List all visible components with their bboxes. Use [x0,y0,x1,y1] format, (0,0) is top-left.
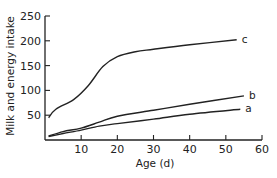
series-label-a: a [245,102,251,114]
x-tick-label: 30 [147,143,161,156]
x-axis-title: Age (d) [136,157,175,169]
y-tick-label: 200 [20,35,41,48]
y-tick-label: 150 [20,60,41,73]
x-tick-label: 60 [255,143,269,156]
x-tick-label: 10 [74,143,88,156]
x-tick-label: 40 [183,143,197,156]
y-axis-title: Milk and energy intake [4,16,16,136]
series-lines: abc [49,33,256,137]
x-tick-label: 50 [219,143,233,156]
series-line-b [49,96,244,136]
series-label-c: c [242,33,248,45]
y-tick-label: 50 [27,109,41,122]
line-chart: 10203040506050100150200250 abc Age (d) M… [0,0,277,178]
x-tick-label: 20 [110,143,124,156]
series-line-c [49,40,237,118]
series-line-a [49,109,241,136]
y-tick-label: 250 [20,10,41,23]
series-label-b: b [249,89,256,101]
y-tick-label: 100 [20,84,41,97]
